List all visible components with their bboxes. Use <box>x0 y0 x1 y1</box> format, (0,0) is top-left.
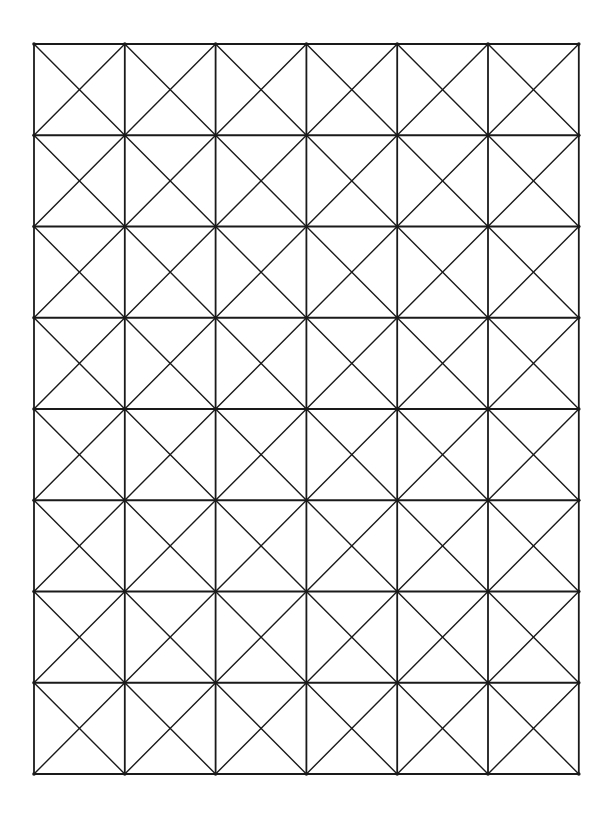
vertex-dot <box>395 590 399 594</box>
vertex-dot <box>395 772 399 776</box>
vertex-dot <box>214 133 218 137</box>
vertex-dot <box>214 316 218 320</box>
vertex-dot <box>214 407 218 411</box>
vertex-dot <box>32 590 36 594</box>
vertex-dot <box>123 133 127 137</box>
vertex-dot <box>214 772 218 776</box>
vertex-dot <box>486 133 490 137</box>
vertex-dot <box>486 498 490 502</box>
vertex-dot <box>32 772 36 776</box>
vertex-dot <box>32 316 36 320</box>
vertex-dot <box>395 42 399 46</box>
vertex-dot <box>32 133 36 137</box>
vertex-dot <box>395 681 399 685</box>
grid-lines <box>32 42 580 776</box>
vertex-dot <box>123 225 127 229</box>
vertex-dot <box>305 133 309 137</box>
vertex-dot <box>486 316 490 320</box>
vertex-dot <box>32 498 36 502</box>
vertex-dot <box>305 681 309 685</box>
vertex-dot <box>32 42 36 46</box>
vertex-dot <box>32 225 36 229</box>
vertex-dot <box>577 681 581 685</box>
vertex-dot <box>577 498 581 502</box>
vertex-dot <box>577 42 581 46</box>
vertex-dot <box>395 407 399 411</box>
vertex-dot <box>577 225 581 229</box>
vertex-dot <box>305 498 309 502</box>
vertex-dot <box>577 133 581 137</box>
vertex-dot <box>305 42 309 46</box>
vertex-dot <box>577 407 581 411</box>
vertex-dot <box>486 407 490 411</box>
vertex-dot <box>486 681 490 685</box>
grid-diagram <box>0 0 610 817</box>
vertex-dot <box>214 42 218 46</box>
vertex-dot <box>123 407 127 411</box>
vertex-dot <box>305 590 309 594</box>
vertex-dot <box>32 681 36 685</box>
vertex-dot <box>214 590 218 594</box>
vertex-dot <box>486 225 490 229</box>
vertex-dot <box>395 316 399 320</box>
vertex-dot <box>123 42 127 46</box>
vertex-dot <box>395 133 399 137</box>
vertex-dot <box>123 498 127 502</box>
vertex-dot <box>486 42 490 46</box>
vertex-dot <box>123 772 127 776</box>
vertex-dot <box>577 772 581 776</box>
vertex-dot <box>214 225 218 229</box>
vertex-dot <box>214 681 218 685</box>
vertex-dot <box>486 772 490 776</box>
vertex-dot <box>577 590 581 594</box>
vertex-dot <box>305 407 309 411</box>
vertex-dot <box>305 316 309 320</box>
vertex-dot <box>123 590 127 594</box>
vertex-dot <box>395 498 399 502</box>
vertex-dot <box>305 772 309 776</box>
vertex-dot <box>214 498 218 502</box>
vertex-dot <box>395 225 399 229</box>
vertex-dot <box>577 316 581 320</box>
vertex-dot <box>123 316 127 320</box>
vertex-dot <box>305 225 309 229</box>
vertex-dot <box>486 590 490 594</box>
vertex-dot <box>123 681 127 685</box>
vertex-dot <box>32 407 36 411</box>
